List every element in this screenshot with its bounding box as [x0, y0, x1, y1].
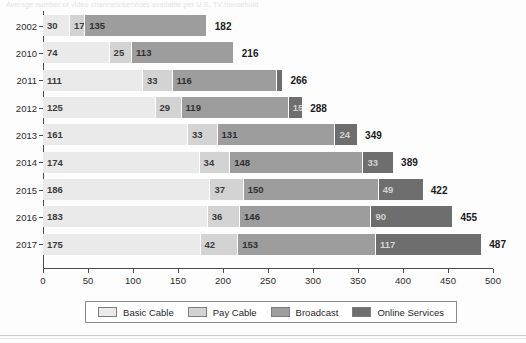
- plot-area: 2002301713518220107425113216201111133116…: [43, 11, 493, 269]
- legend-label: Broadcast: [296, 307, 339, 318]
- bar-segment-basic-cable: 186: [43, 179, 210, 200]
- x-axis-tick-label: 150: [170, 275, 186, 286]
- bar-row: 20141743414833389: [43, 152, 393, 173]
- x-axis-tick: [358, 269, 359, 273]
- y-axis-label-2011: 2011: [17, 75, 37, 86]
- segment-value-label: 17: [70, 20, 85, 31]
- bar-segment-pay-cable: 29: [156, 97, 182, 118]
- bar-segment-online-services: 117: [376, 234, 481, 255]
- bar-segment-broadcast: 116: [173, 70, 277, 91]
- bar-row: 20161833614690455: [43, 206, 452, 227]
- segment-value-label: 37: [210, 184, 225, 195]
- bar-segment-pay-cable: 33: [143, 70, 173, 91]
- bar-total-label: 182: [215, 20, 232, 31]
- bar-total-label: 455: [461, 211, 478, 222]
- segment-value-label: 174: [43, 157, 63, 168]
- segment-value-label: 33: [143, 75, 158, 86]
- segment-value-label: 111: [43, 75, 62, 86]
- segment-value-label: 183: [43, 211, 63, 222]
- bar-segment-broadcast: 150: [244, 179, 379, 200]
- legend-swatch-icon: [271, 307, 290, 317]
- bar-total-label: 389: [401, 157, 418, 168]
- x-axis-tick-label: 100: [125, 275, 141, 286]
- y-axis-label-2002: 2002: [16, 20, 37, 31]
- legend-swatch-icon: [352, 307, 371, 317]
- bar-segment-basic-cable: 74: [43, 42, 110, 63]
- bar-segment-broadcast: 153: [238, 234, 376, 255]
- y-axis-label-2017: 2017: [16, 239, 37, 250]
- bar-segment-pay-cable: 25: [110, 42, 133, 63]
- x-axis-tick-label: 200: [215, 275, 231, 286]
- bar-row: 20151863715049422: [43, 179, 423, 200]
- x-axis-tick: [448, 269, 449, 273]
- segment-value-label: 15: [289, 102, 303, 113]
- bar-segment-pay-cable: 33: [188, 124, 218, 145]
- x-axis-tick-label: 250: [260, 275, 276, 286]
- bar-total-label: 349: [365, 129, 382, 140]
- y-axis-label-2014: 2014: [16, 157, 37, 168]
- segment-value-label: 175: [43, 239, 63, 250]
- cut-off-title: Average number of video channels/service…: [0, 0, 526, 9]
- x-axis-tick-label: 0: [40, 275, 45, 286]
- bar-total-label: 487: [489, 239, 506, 250]
- segment-value-label: 125: [43, 102, 63, 113]
- x-axis-tick: [223, 269, 224, 273]
- y-axis-label-2012: 2012: [16, 102, 37, 113]
- segment-value-label: 119: [182, 102, 201, 113]
- bar-row: 20121252911915288: [43, 97, 302, 118]
- legend-swatch-icon: [188, 307, 207, 317]
- legend-item-basic-cable[interactable]: Basic Cable: [98, 307, 174, 318]
- y-axis-label-2016: 2016: [16, 211, 37, 222]
- legend-swatch-icon: [98, 307, 117, 317]
- legend-item-pay-cable[interactable]: Pay Cable: [188, 307, 257, 318]
- segment-value-label: 33: [188, 129, 203, 140]
- segment-value-label: 24: [335, 129, 350, 140]
- x-axis-tick: [268, 269, 269, 273]
- segment-value-label: 25: [110, 47, 125, 58]
- segment-value-label: 36: [208, 211, 223, 222]
- x-axis-tick: [403, 269, 404, 273]
- legend-item-online-services[interactable]: Online Services: [352, 307, 444, 318]
- segment-value-label: 113: [132, 47, 151, 58]
- x-axis-tick-label: 300: [305, 275, 321, 286]
- x-axis-tick-label: 350: [350, 275, 366, 286]
- segment-value-label: 135: [85, 20, 105, 31]
- x-axis-tick: [313, 269, 314, 273]
- x-axis-tick-label: 500: [485, 275, 501, 286]
- segment-value-label: 131: [218, 129, 238, 140]
- segment-value-label: 42: [201, 239, 216, 250]
- segment-value-label: 150: [244, 184, 264, 195]
- bar-row: 201717542153117487: [43, 234, 481, 255]
- bar-segment-basic-cable: 30: [43, 15, 70, 36]
- bar-segment-online-services: 49: [379, 179, 423, 200]
- segment-value-label: 146: [240, 211, 260, 222]
- segment-value-label: 49: [379, 184, 394, 195]
- bar-segment-pay-cable: 34: [200, 152, 231, 173]
- segment-value-label: 90: [371, 211, 386, 222]
- bar-segment-basic-cable: 125: [43, 97, 156, 118]
- x-axis-tick: [88, 269, 89, 273]
- bar-segment-broadcast: 135: [85, 15, 207, 36]
- legend-item-broadcast[interactable]: Broadcast: [271, 307, 339, 318]
- bar-segment-online-services: 15: [289, 97, 303, 118]
- segment-value-label: 34: [200, 157, 215, 168]
- bar-segment-pay-cable: 17: [70, 15, 85, 36]
- segment-value-label: 30: [43, 20, 58, 31]
- footer-divider-secondary: [0, 338, 526, 339]
- bar-segment-pay-cable: 37: [210, 179, 243, 200]
- bar-total-label: 288: [310, 102, 327, 113]
- legend-label: Online Services: [377, 307, 444, 318]
- x-axis-tick: [43, 269, 44, 273]
- bar-segment-broadcast: 119: [182, 97, 289, 118]
- segment-value-label: 161: [43, 129, 63, 140]
- bar-segment-broadcast: 146: [240, 206, 371, 227]
- bar-segment-basic-cable: 111: [43, 70, 143, 91]
- bar-segment-broadcast: 113: [132, 42, 234, 63]
- x-axis-tick: [493, 269, 494, 273]
- segment-value-label: 33: [363, 157, 378, 168]
- footer-divider: [0, 335, 526, 336]
- bar-segment-online-services: 90: [371, 206, 452, 227]
- x-axis-tick-label: 450: [440, 275, 456, 286]
- legend-label: Basic Cable: [123, 307, 174, 318]
- segment-value-label: 117: [376, 239, 395, 250]
